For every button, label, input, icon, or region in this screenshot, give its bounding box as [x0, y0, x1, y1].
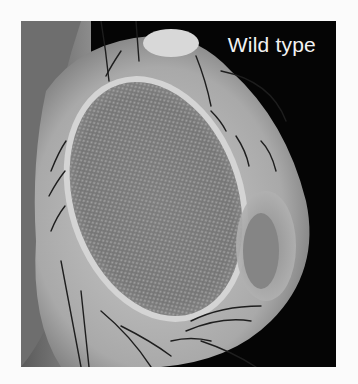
figure-label: Wild type — [228, 33, 316, 57]
fly-head-illustration — [21, 21, 336, 367]
micrograph-panel: Wild type — [21, 21, 336, 367]
